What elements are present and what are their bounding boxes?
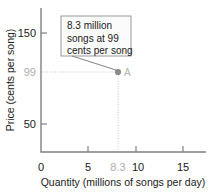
- x-axis-title: Quantity (millions of songs per day): [41, 176, 206, 188]
- x-tick-label-8-3: 8.3: [110, 161, 125, 173]
- annotation-leader-line: [72, 56, 116, 70]
- y-tick-label-99: 99: [24, 66, 36, 78]
- chart-canvas: 150 99 50 0 5 8.3 10 15 A 8.3 million so…: [0, 0, 215, 195]
- y-tick-label-50: 50: [24, 118, 36, 130]
- x-tick-label-15: 15: [177, 161, 189, 173]
- annotation-line-1: 8.3 million: [67, 20, 112, 31]
- data-point-a-label: A: [124, 67, 131, 78]
- annotation-line-3: cents per song: [67, 45, 133, 56]
- annotation-line-2: songs at 99: [67, 33, 119, 44]
- data-point-a[interactable]: [115, 69, 121, 75]
- x-tick-label-10: 10: [132, 161, 144, 173]
- x-tick-label-5: 5: [85, 161, 91, 173]
- price-quantity-chart: 150 99 50 0 5 8.3 10 15 A 8.3 million so…: [0, 0, 215, 195]
- y-axis-title: Price (cents per song): [4, 29, 16, 132]
- x-tick-label-0: 0: [38, 161, 44, 173]
- y-tick-label-150: 150: [18, 27, 36, 39]
